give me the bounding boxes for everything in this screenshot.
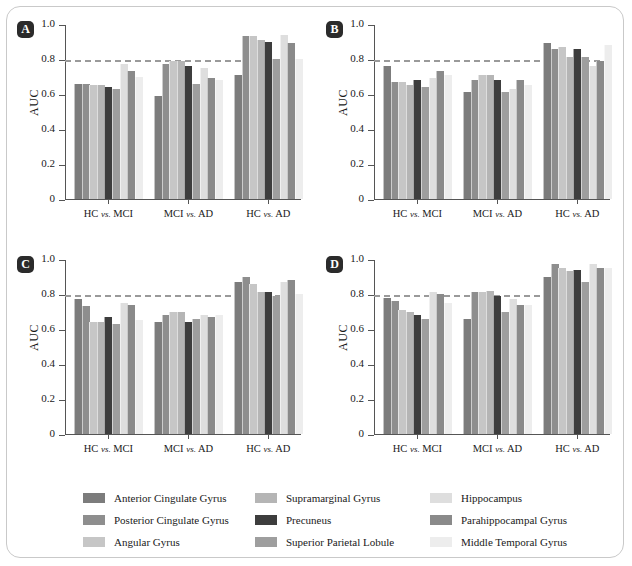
figure-legend: Anterior Cingulate GyrusSupramarginal Gy…	[7, 477, 625, 559]
y-axis-tick: 0	[59, 200, 65, 201]
legend-swatch	[430, 537, 452, 547]
x-axis-tick	[417, 434, 418, 439]
legend-item: Anterior Cingulate Gyrus	[83, 492, 255, 504]
legend-swatch	[255, 537, 277, 547]
legend-item: Precuneus	[255, 514, 430, 526]
y-axis-tick: 0	[59, 435, 65, 436]
legend-label: Posterior Cingulate Gyrus	[114, 514, 229, 526]
y-axis-tick: 1.0	[59, 260, 65, 261]
legend-swatch	[83, 515, 105, 525]
panel-b: B00.20.40.60.81.0HC vs. MCIMCI vs. ADHC …	[316, 7, 625, 242]
bar	[215, 315, 223, 434]
x-axis-tick	[108, 434, 109, 439]
y-axis-tick: 0.4	[368, 365, 374, 366]
bar	[604, 268, 612, 434]
y-axis-tick-label: 0.2	[41, 157, 55, 169]
legend-label: Parahippocampal Gyrus	[461, 514, 567, 526]
x-axis-tick	[577, 434, 578, 439]
y-axis-tick-label: 1.0	[41, 252, 55, 264]
plot-area: 00.20.40.60.81.0HC vs. MCIMCI vs. ADHC v…	[65, 260, 301, 435]
bar	[295, 59, 303, 199]
y-axis-tick-label: 0.2	[41, 392, 55, 404]
x-axis-line	[374, 434, 610, 435]
bar-group: HC vs. MCI	[74, 259, 142, 434]
x-axis-group-label: HC vs. AD	[555, 208, 599, 219]
x-axis-group-label: HC vs. MCI	[84, 208, 133, 219]
bar-group: HC vs. MCI	[74, 24, 142, 199]
y-axis-line	[65, 260, 66, 435]
bar-group: HC vs. AD	[234, 259, 302, 434]
figure-frame: A00.20.40.60.81.0HC vs. MCIMCI vs. ADHC …	[6, 6, 624, 558]
y-axis-tick-label: 0	[359, 192, 365, 204]
y-axis-tick: 0	[368, 435, 374, 436]
x-axis-tick	[577, 199, 578, 204]
legend-label: Hippocampus	[461, 492, 522, 504]
legend-swatch	[255, 493, 277, 503]
bar-group: MCI vs. AD	[154, 24, 222, 199]
y-axis-tick: 0.6	[368, 330, 374, 331]
y-axis-tick-label: 0.6	[350, 322, 364, 334]
y-axis-tick-label: 0	[50, 427, 56, 439]
panel-label-badge: A	[17, 21, 34, 38]
x-axis-tick	[268, 434, 269, 439]
bar	[295, 294, 303, 434]
legend-swatch	[83, 537, 105, 547]
y-axis-tick-label: 0.2	[350, 157, 364, 169]
y-axis-line	[374, 260, 375, 435]
y-axis-tick: 0.6	[59, 95, 65, 96]
bar	[444, 75, 452, 199]
legend-item: Middle Temporal Gyrus	[430, 536, 567, 548]
x-axis-group-label: MCI vs. AD	[473, 443, 522, 454]
plot-area: 00.20.40.60.81.0HC vs. MCIMCI vs. ADHC v…	[374, 25, 610, 200]
legend-item: Posterior Cingulate Gyrus	[83, 514, 255, 526]
legend-swatch	[255, 515, 277, 525]
x-axis-tick	[188, 199, 189, 204]
y-axis-tick: 0.2	[368, 165, 374, 166]
panel-a: A00.20.40.60.81.0HC vs. MCIMCI vs. ADHC …	[7, 7, 316, 242]
legend-label: Precuneus	[286, 514, 331, 526]
bar-group: HC vs. MCI	[383, 24, 451, 199]
bar-group: HC vs. AD	[543, 24, 611, 199]
y-axis-title: AUC	[27, 89, 42, 116]
y-axis-tick-label: 0.4	[41, 122, 55, 134]
x-axis-tick	[188, 434, 189, 439]
bar	[604, 45, 612, 199]
legend-item: Superior Parietal Lobule	[255, 536, 430, 548]
legend-item: Parahippocampal Gyrus	[430, 514, 567, 526]
legend-label: Supramarginal Gyrus	[286, 492, 380, 504]
legend-label: Anterior Cingulate Gyrus	[114, 492, 226, 504]
bar	[524, 305, 532, 435]
x-axis-group-label: HC vs. MCI	[393, 443, 442, 454]
bar-group: MCI vs. AD	[463, 24, 531, 199]
y-axis-tick-label: 0.8	[350, 287, 364, 299]
legend-item: Supramarginal Gyrus	[255, 492, 430, 504]
y-axis-tick: 0.2	[368, 400, 374, 401]
bar-group: MCI vs. AD	[154, 259, 222, 434]
x-axis-line	[65, 434, 301, 435]
bar	[135, 77, 143, 200]
panel-d: D00.20.40.60.81.0HC vs. MCIMCI vs. ADHC …	[316, 242, 625, 477]
panel-grid: A00.20.40.60.81.0HC vs. MCIMCI vs. ADHC …	[7, 7, 625, 477]
y-axis-title: AUC	[27, 324, 42, 351]
y-axis-tick-label: 0.8	[41, 52, 55, 64]
y-axis-tick-label: 0.8	[41, 287, 55, 299]
bar	[135, 320, 143, 434]
x-axis-line	[65, 199, 301, 200]
panel-label-badge: B	[326, 21, 343, 38]
x-axis-tick	[417, 199, 418, 204]
bar-group: HC vs. AD	[543, 259, 611, 434]
x-axis-group-label: MCI vs. AD	[164, 443, 213, 454]
x-axis-tick	[497, 434, 498, 439]
legend-label: Angular Gyrus	[114, 536, 180, 548]
y-axis-title: AUC	[336, 324, 351, 351]
panel-label-badge: C	[17, 256, 34, 273]
y-axis-tick: 0.4	[368, 130, 374, 131]
plot-area: 00.20.40.60.81.0HC vs. MCIMCI vs. ADHC v…	[374, 260, 610, 435]
x-axis-tick	[268, 199, 269, 204]
y-axis-tick-label: 0.4	[350, 357, 364, 369]
y-axis-tick-label: 1.0	[350, 17, 364, 29]
legend-label: Middle Temporal Gyrus	[461, 536, 567, 548]
bar	[215, 80, 223, 199]
y-axis-tick-label: 0.8	[350, 52, 364, 64]
x-axis-group-label: HC vs. AD	[555, 443, 599, 454]
